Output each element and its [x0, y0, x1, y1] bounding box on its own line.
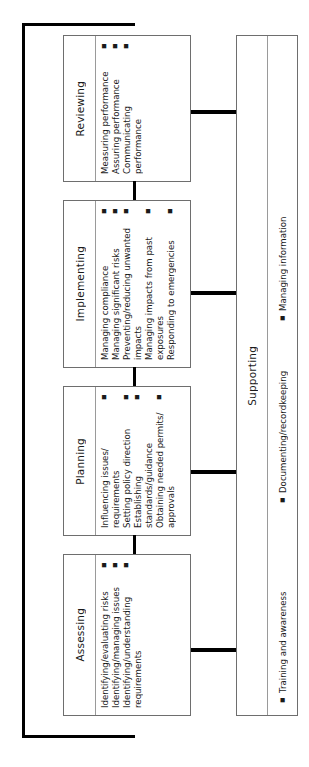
list-item: ▪ Managing significant risks [111, 207, 122, 360]
bullet-icon: ▪ [278, 496, 288, 506]
list-item-label: Preventing/reducing unwanted impacts [122, 216, 144, 360]
list-item: ▪ Responding to emergencies [166, 207, 177, 360]
list-item: ▪ Obtaining needed permits/ approvals [155, 393, 177, 528]
list-item: ▪ Managing compliance [100, 207, 111, 360]
stage-title-label: Assessing [74, 608, 86, 662]
stage-title-label: Planning [74, 438, 86, 485]
list-item-label: Managing significant risks [111, 216, 122, 360]
stage-title-supporting: Supporting [237, 36, 268, 715]
list-item: ▪ Measuring performance [100, 42, 111, 174]
connector-planning-supporting [191, 470, 236, 474]
bullet-icon: ▪ [122, 207, 144, 217]
list-item-label: Assuring performance [111, 51, 122, 174]
list-item-label: Identifying/understanding requirements [122, 570, 144, 708]
stage-item-list: ▪ Measuring performance ▪ Assuring perfo… [100, 42, 144, 174]
stage-box-assessing[interactable]: Assessing ▪ Identifying/evaluating risks… [63, 554, 191, 716]
stage-title-implementing: Implementing [64, 201, 96, 367]
list-item-label: Managing compliance [100, 216, 111, 360]
list-item: ▪ Training and awareness [268, 506, 297, 706]
stage-title-label: Supporting [246, 346, 258, 406]
list-item: ▪ Managing impacts from past exposures [144, 207, 166, 360]
stage-title-reviewing: Reviewing [64, 36, 96, 181]
stage-body-implementing: ▪ Managing compliance ▪ Managing signifi… [96, 201, 190, 367]
list-item-label: Obtaining needed permits/ approvals [155, 402, 177, 528]
stage-box-planning[interactable]: Planning ▪ Influencing issues/ requireme… [63, 386, 191, 536]
bullet-icon: ▪ [100, 393, 122, 403]
list-item: ▪ Identifying/evaluating risks [100, 561, 111, 708]
bullet-icon: ▪ [144, 207, 166, 217]
feedback-loop-bottom-segment [22, 735, 135, 738]
list-item: ▪ Identifying/understanding requirements [122, 561, 144, 708]
list-item: ▪ Documenting/recordkeeping [268, 326, 297, 506]
list-item-label: Influencing issues/ requirements [100, 402, 122, 528]
list-item: ▪ Preventing/reducing unwanted impacts [122, 207, 144, 360]
connector-implementing-supporting [191, 291, 236, 295]
bullet-icon: ▪ [278, 314, 288, 324]
stage-title-label: Reviewing [74, 81, 86, 137]
stage-body-reviewing: ▪ Measuring performance ▪ Assuring perfo… [96, 36, 190, 181]
connector-reviewing-supporting [191, 110, 236, 114]
list-item: ▪ Assuring performance [111, 42, 122, 174]
list-item-label: Responding to emergencies [166, 216, 177, 360]
bullet-icon: ▪ [166, 207, 177, 217]
stage-body-assessing: ▪ Identifying/evaluating risks ▪ Identif… [96, 555, 190, 715]
list-item: ▪ Communicating performance [122, 42, 144, 174]
stage-item-list: ▪ Influencing issues/ requirements ▪ Set… [100, 393, 177, 528]
stage-box-implementing[interactable]: Implementing ▪ Managing compliance ▪ Man… [63, 200, 191, 368]
list-item-label: Managing impacts from past exposures [144, 216, 166, 360]
bullet-icon: ▪ [155, 393, 177, 403]
list-item-label: Identifying/evaluating risks [100, 570, 111, 708]
feedback-loop-left-segment [22, 23, 25, 738]
stage-body-planning: ▪ Influencing issues/ requirements ▪ Set… [96, 387, 190, 535]
connector-reviewing-implementing [133, 181, 136, 201]
stage-box-supporting[interactable]: Supporting ▪ Training and awareness ▪ Do… [236, 35, 298, 716]
list-item-label: Establishing standards/guidance [133, 402, 155, 528]
list-item-label: Managing information [278, 217, 288, 311]
list-item-label: Training and awareness [278, 592, 288, 693]
stage-item-list: ▪ Identifying/evaluating risks ▪ Identif… [100, 561, 144, 708]
bullet-icon: ▪ [122, 42, 144, 52]
list-item-label: Measuring performance [100, 51, 111, 174]
bullet-icon: ▪ [133, 393, 155, 403]
list-item: ▪ Influencing issues/ requirements [100, 393, 122, 528]
feedback-loop-top-segment [22, 23, 135, 26]
list-item: ▪ Identifying/managing issues [111, 561, 122, 708]
list-item-label: Documenting/recordkeeping [278, 371, 288, 493]
connector-implementing-planning [133, 367, 136, 387]
list-item: ▪ Managing information [268, 144, 297, 324]
stage-item-list: ▪ Managing compliance ▪ Managing signifi… [100, 207, 177, 360]
stage-box-reviewing[interactable]: Reviewing ▪ Measuring performance ▪ Assu… [63, 35, 191, 182]
bullet-icon: ▪ [122, 561, 144, 571]
list-item-label: Identifying/managing issues [111, 570, 122, 708]
stage-title-label: Implementing [74, 246, 86, 321]
list-item: ▪ Establishing standards/guidance [133, 393, 155, 528]
connector-planning-assessing [133, 535, 136, 555]
stage-title-assessing: Assessing [64, 555, 96, 715]
bullet-icon: ▪ [278, 696, 288, 706]
stage-body-supporting: ▪ Training and awareness ▪ Documenting/r… [268, 36, 297, 715]
list-item-label: Setting policy direction [122, 402, 133, 528]
diagram-canvas: Reviewing ▪ Measuring performance ▪ Assu… [0, 0, 309, 767]
list-item-label: Communicating performance [122, 51, 144, 174]
list-item: ▪ Setting policy direction [122, 393, 133, 528]
connector-assessing-supporting [191, 648, 236, 652]
stage-title-planning: Planning [64, 387, 96, 535]
